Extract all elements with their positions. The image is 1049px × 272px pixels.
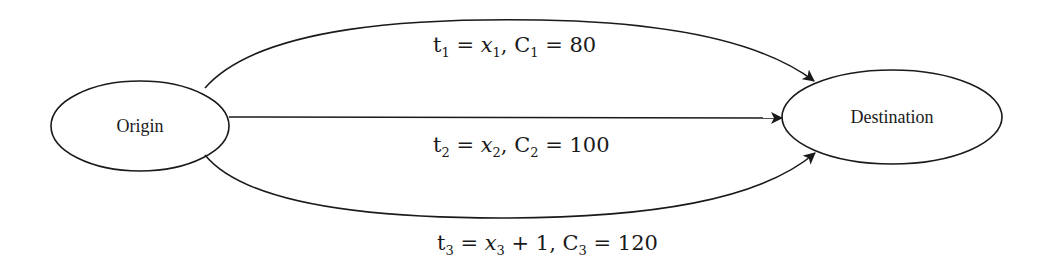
node-origin: Origin [51, 81, 229, 171]
destination-label: Destination [851, 107, 934, 127]
edge-route-3 [205, 153, 815, 218]
edge-label-route-2: t2 = x2, C2 = 100 [433, 133, 610, 160]
edge-route-2 [229, 117, 782, 118]
edge-label-route-1: t1 = x1, C1 = 80 [433, 33, 596, 60]
origin-label: Origin [117, 116, 164, 136]
network-diagram: Origin Destination t1 = x1, C1 = 80 t2 =… [0, 0, 1049, 272]
node-destination: Destination [782, 70, 1002, 164]
edge-label-route-3: t3 = x3 + 1, C3 = 120 [437, 231, 658, 258]
